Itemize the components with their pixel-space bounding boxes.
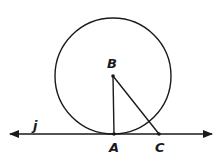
segment-ba xyxy=(113,76,114,134)
label-b: B xyxy=(107,56,117,71)
label-c: C xyxy=(155,140,165,155)
point-c xyxy=(157,132,161,136)
label-line-j: j xyxy=(31,118,38,133)
point-a xyxy=(112,132,116,136)
label-a: A xyxy=(108,140,119,155)
geometry-diagram: B A C j xyxy=(0,0,222,162)
point-b xyxy=(111,74,115,78)
segment-bc xyxy=(113,76,159,134)
